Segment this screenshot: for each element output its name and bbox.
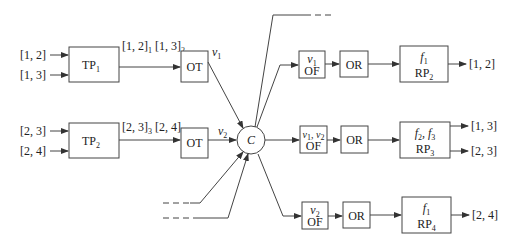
input-2-3: [2, 3] bbox=[20, 124, 68, 138]
svg-text:[2, 4]: [2, 4] bbox=[20, 144, 46, 158]
ot2-block: OT bbox=[181, 128, 208, 158]
signal-v1-label: v1 bbox=[212, 45, 221, 61]
line-to-of3 bbox=[258, 154, 301, 216]
svg-text:OR: OR bbox=[346, 133, 363, 147]
tp1-output-label: [1, 2]1 [1, 3]2 bbox=[122, 39, 185, 55]
line-bottom-2 bbox=[195, 154, 248, 218]
tp2-output-label: [2, 3]3 [2, 4]1 bbox=[122, 120, 185, 136]
output-1-2: [1, 2] bbox=[469, 57, 495, 71]
svg-text:[2, 3]: [2, 3] bbox=[20, 124, 46, 138]
svg-text:OF: OF bbox=[307, 215, 323, 229]
or1-block: OR bbox=[340, 51, 368, 77]
rp3-block: f2, f3 RP3 bbox=[400, 122, 450, 158]
rp2-block: f1 RP2 bbox=[400, 46, 448, 82]
coupler-c: C bbox=[237, 126, 265, 154]
signal-v2-label: v2 bbox=[218, 124, 227, 140]
arrow-icon bbox=[208, 62, 243, 128]
svg-text:OT: OT bbox=[187, 136, 204, 150]
rp4-block: f1 RP4 bbox=[402, 197, 451, 233]
svg-text:OR: OR bbox=[348, 209, 365, 223]
line-to-top bbox=[255, 15, 305, 127]
svg-text:OF: OF bbox=[304, 64, 320, 78]
output-2-3: [2, 3] bbox=[471, 144, 497, 158]
svg-text:[2, 3]3 [2, 4]1: [2, 3]3 [2, 4]1 bbox=[122, 120, 185, 136]
or2-block: OR bbox=[341, 126, 368, 153]
output-1-3: [1, 3] bbox=[471, 119, 497, 133]
of1-block: v1 OF bbox=[299, 51, 325, 78]
input-1-2: [1, 2] bbox=[20, 48, 68, 62]
of2-block: v1, v2 OF bbox=[300, 126, 327, 153]
svg-text:[1, 3]: [1, 3] bbox=[20, 68, 46, 82]
wdm-network-diagram: [1, 2] [1, 3] [2, 3] [2, 4] TP1 [1, 2]1 … bbox=[0, 0, 516, 245]
or3-block: OR bbox=[343, 202, 370, 228]
svg-text:[1, 2]: [1, 2] bbox=[20, 48, 46, 62]
svg-text:[1, 2]1 [1, 3]2: [1, 2]1 [1, 3]2 bbox=[122, 39, 185, 55]
tp2-block: TP2 bbox=[69, 123, 119, 158]
tp1-block: TP1 bbox=[69, 47, 119, 82]
ot1-block: OT bbox=[181, 51, 208, 82]
of3-block: v2 OF bbox=[302, 202, 328, 229]
input-2-4: [2, 4] bbox=[20, 144, 68, 158]
input-1-3: [1, 3] bbox=[20, 68, 68, 82]
svg-text:OF: OF bbox=[306, 139, 322, 153]
svg-text:OT: OT bbox=[187, 60, 204, 74]
svg-text:OR: OR bbox=[346, 58, 363, 72]
output-2-4: [2, 4] bbox=[472, 208, 498, 222]
svg-text:C: C bbox=[247, 133, 256, 147]
